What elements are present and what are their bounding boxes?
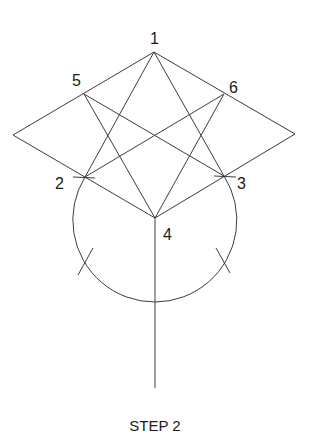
point-ticks <box>73 176 236 178</box>
construction-lines <box>84 52 224 218</box>
arc-ticks <box>78 248 230 275</box>
geometric-construction-diagram: 1 2 3 4 5 6 STEP 2 <box>0 0 311 443</box>
step-caption: STEP 2 <box>129 417 180 434</box>
point-label-6: 6 <box>229 79 238 96</box>
point-label-5: 5 <box>72 72 81 89</box>
point-label-4: 4 <box>163 226 172 243</box>
point-label-2: 2 <box>55 175 64 192</box>
point-label-1: 1 <box>150 30 159 47</box>
point-label-3: 3 <box>237 175 246 192</box>
